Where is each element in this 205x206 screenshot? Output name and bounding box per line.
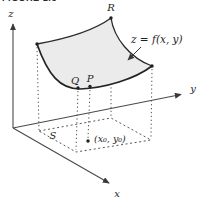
point-label-q: Q xyxy=(71,75,79,86)
point-r-marker xyxy=(109,16,112,19)
z-axis-label: z xyxy=(7,8,14,19)
surface-equation-label: z = f(x, y) xyxy=(130,33,183,45)
base-point-label: (x₀, y₀) xyxy=(94,133,126,144)
dotted-projection-p xyxy=(88,90,90,138)
surface-diagram-canvas: z y x R Q P S (x₀, y₀) z = f(x, y) xyxy=(0,0,205,206)
dotted-projection-left-corner xyxy=(37,47,39,130)
dotted-projection-q xyxy=(76,91,78,150)
point-p-marker xyxy=(88,85,91,88)
figure-page: { "figure": { "caption": "FIGURE 1.5", "… xyxy=(0,0,205,206)
point-label-r: R xyxy=(106,2,115,13)
region-label-s: S xyxy=(50,130,57,141)
point-right-corner-marker xyxy=(150,64,153,67)
dotted-projection-right-corner xyxy=(151,69,152,138)
point-label-p: P xyxy=(86,73,94,84)
y-axis xyxy=(13,95,181,129)
point-x0y0-marker xyxy=(86,139,89,142)
point-q-marker xyxy=(76,86,79,89)
point-left-corner-marker xyxy=(35,42,38,45)
y-axis-label: y xyxy=(189,83,196,94)
x-axis-label: x xyxy=(114,188,120,199)
